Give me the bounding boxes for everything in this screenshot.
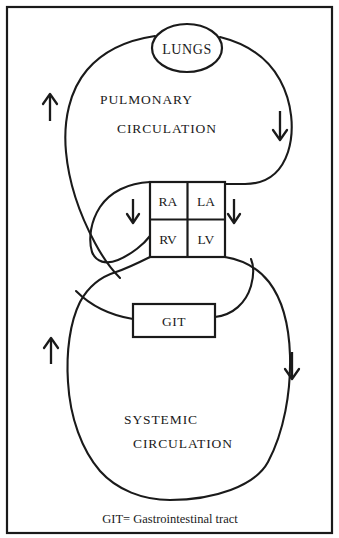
pulmonary-circulation-label-line2: CIRCULATION [117,121,217,136]
circulation-diagram: LUNGS RA LA RV LV GIT PULMONARY CIRCULAT… [0,0,339,538]
figure-caption: GIT= Gastrointestinal tract [102,512,238,526]
pulmonary-right-vessel [220,37,292,184]
pulmonary-circulation-label-line1: PULMONARY [100,92,193,107]
systemic-right-down-arrow-icon [285,352,299,379]
pulmonary-left-up-arrow-icon [43,94,57,121]
systemic-right-vessel [170,257,290,500]
heart-cell-la-label: LA [197,194,215,209]
heart-cell-lv-label: LV [198,232,215,247]
pulmonary-right-down-arrow-icon [273,111,287,140]
heart-left-down-arrow-icon [127,199,139,223]
systemic-circulation-label-line2: CIRCULATION [133,436,233,451]
figure-canvas: LUNGS RA LA RV LV GIT PULMONARY CIRCULAT… [0,0,339,538]
heart-cell-rv-label: RV [159,232,177,247]
heart-right-down-arrow-icon [228,199,240,223]
systemic-circulation-label-line1: SYSTEMIC [124,412,198,427]
lungs-label: LUNGS [162,42,212,57]
heart-cell-ra-label: RA [159,194,178,209]
systemic-left-up-arrow-icon [44,338,58,364]
git-outlet-vessel [215,259,253,317]
pulmonary-left-vessel [65,36,155,278]
git-label: GIT [162,314,186,329]
systemic-left-vessel [68,257,171,500]
